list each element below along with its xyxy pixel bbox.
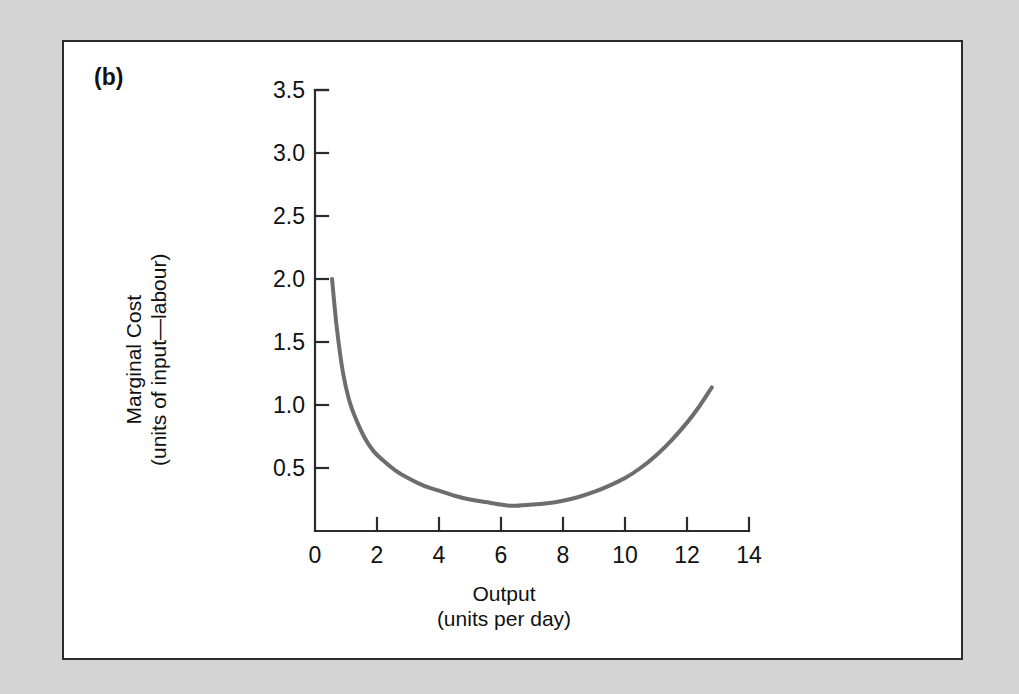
y-tick-label: 1.0 bbox=[247, 392, 305, 419]
plot-area: 0.51.01.52.02.53.03.5 02468101214 Margin… bbox=[64, 42, 965, 662]
y-axis-title-units: (units of input—labour) bbox=[147, 195, 172, 525]
y-tick-label: 3.5 bbox=[247, 77, 305, 104]
x-tick-label: 8 bbox=[557, 542, 570, 569]
y-axis-title: Marginal Cost (units of input—labour) bbox=[122, 195, 172, 525]
x-tick-label: 2 bbox=[371, 542, 384, 569]
x-tick-label: 4 bbox=[433, 542, 446, 569]
y-tick-label: 2.0 bbox=[247, 266, 305, 293]
x-tick-label: 10 bbox=[612, 542, 638, 569]
x-tick-label: 12 bbox=[674, 542, 700, 569]
y-tick-label: 2.5 bbox=[247, 203, 305, 230]
x-axis-tick-labels: 02468101214 bbox=[64, 542, 965, 576]
figure-frame: (b) 0.51.01.52.02.53.03.5 02468101214 Ma… bbox=[62, 40, 963, 660]
x-tick-label: 6 bbox=[495, 542, 508, 569]
x-axis-title-main: Output bbox=[254, 582, 754, 607]
y-tick-label: 0.5 bbox=[247, 455, 305, 482]
x-axis-title-units: (units per day) bbox=[254, 607, 754, 632]
y-tick-label: 3.0 bbox=[247, 140, 305, 167]
y-tick-label: 1.5 bbox=[247, 329, 305, 356]
marginal-cost-curve bbox=[332, 279, 712, 506]
x-axis-title: Output (units per day) bbox=[254, 582, 754, 632]
axes-group bbox=[315, 90, 749, 531]
x-tick-label: 0 bbox=[309, 542, 322, 569]
x-tick-label: 14 bbox=[736, 542, 762, 569]
data-series-group bbox=[332, 279, 712, 506]
y-axis-title-main: Marginal Cost bbox=[122, 195, 147, 525]
